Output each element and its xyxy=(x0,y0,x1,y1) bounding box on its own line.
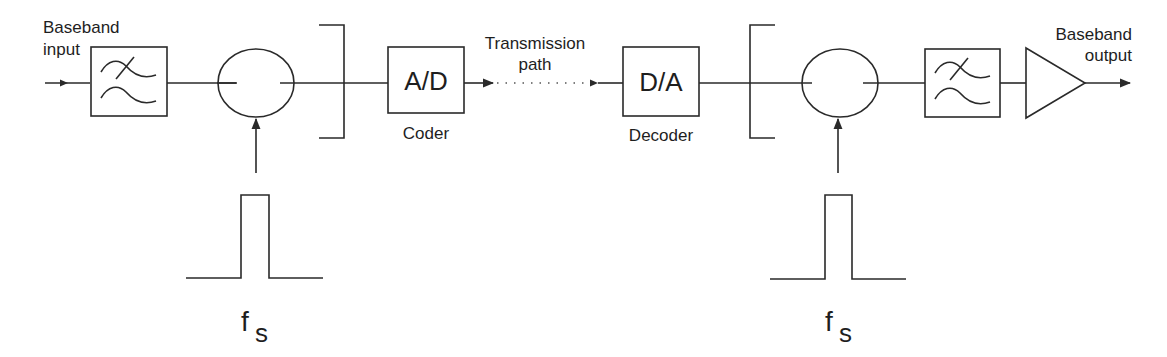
fs-subscript: S xyxy=(255,318,268,348)
baseband-output-label-line2: output xyxy=(1085,46,1133,65)
pcm-block-diagram: Baseband input A/D Coder xyxy=(0,0,1167,357)
decoder-box-label: D/A xyxy=(639,67,683,97)
hold-bracket-tx xyxy=(319,25,344,138)
coder-block: A/D Coder xyxy=(388,47,464,143)
sampling-pulse-icon xyxy=(186,195,323,278)
fs-main: f xyxy=(825,306,833,337)
baseband-input-label-line2: input xyxy=(43,40,80,59)
transmission-path: Transmission path xyxy=(464,34,623,87)
coder-box-label: A/D xyxy=(404,66,447,96)
sampling-switch-rx xyxy=(802,49,925,117)
baseband-input-label-line1: Baseband xyxy=(43,18,120,37)
input-lowpass-filter xyxy=(91,47,167,116)
coder-caption: Coder xyxy=(403,124,450,143)
input-arrow-icon xyxy=(45,80,90,87)
baseband-output-label: Baseband output xyxy=(1055,25,1132,65)
amplifier-triangle-icon xyxy=(1026,48,1085,118)
sampling-pulse-icon xyxy=(770,195,906,279)
baseband-output-label-line1: Baseband xyxy=(1055,25,1132,44)
fs-main: f xyxy=(241,306,249,337)
fs-subscript: S xyxy=(839,318,852,348)
decoder-caption: Decoder xyxy=(629,126,694,145)
hold-bracket-rx xyxy=(750,25,775,138)
decoder-block: D/A Decoder xyxy=(623,47,699,145)
sampling-frequency-label-left: f S xyxy=(241,306,268,348)
sampling-frequency-label-right: f S xyxy=(825,306,852,348)
transmission-label-line1: Transmission xyxy=(485,34,585,53)
transmission-label-line2: path xyxy=(518,55,551,74)
output-lowpass-filter xyxy=(925,49,1000,117)
